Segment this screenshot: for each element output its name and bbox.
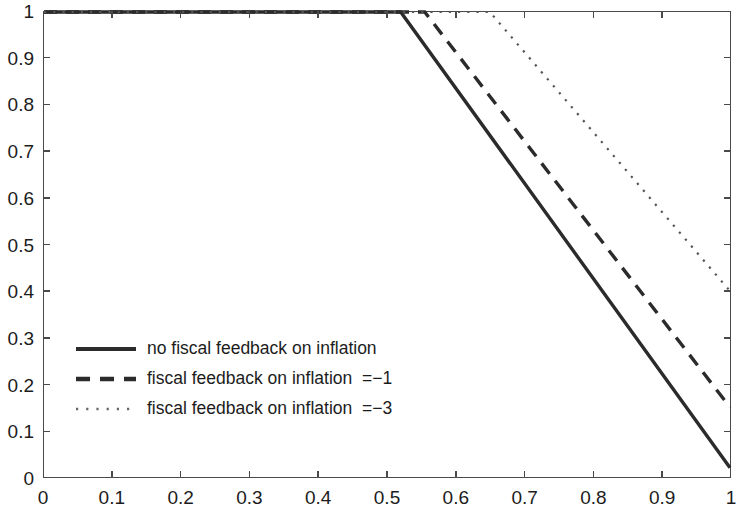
x-tick-mark-bottom-5 [386, 471, 388, 478]
y-tick-label-8: 0.8 [0, 95, 34, 114]
y-tick-label-7: 0.7 [0, 142, 34, 161]
legend-item-solid: no fiscal feedback on inflation [75, 334, 405, 364]
y-tick-label-9: 0.9 [0, 48, 34, 67]
y-tick-mark-right-9 [724, 57, 731, 59]
x-tick-label-0: 0 [38, 488, 49, 507]
x-tick-mark-bottom-8 [593, 471, 595, 478]
x-tick-mark-top-9 [661, 11, 663, 18]
x-tick-mark-top-3 [249, 11, 251, 18]
x-tick-label-10: 1 [726, 488, 737, 507]
y-tick-mark-right-1 [724, 431, 731, 433]
y-tick-mark-right-2 [724, 384, 731, 386]
y-tick-mark-right-6 [724, 197, 731, 199]
chart-figure: 00.10.20.30.40.50.60.70.80.91 00.10.20.3… [0, 0, 743, 511]
y-tick-mark-right-5 [724, 244, 731, 246]
y-tick-mark-left-6 [43, 197, 50, 199]
x-tick-label-3: 0.3 [236, 488, 262, 507]
y-tick-label-3: 0.3 [0, 328, 34, 347]
x-tick-mark-top-1 [111, 11, 113, 18]
x-tick-mark-top-4 [317, 11, 319, 18]
x-tick-mark-bottom-1 [111, 471, 113, 478]
y-tick-label-5: 0.5 [0, 235, 34, 254]
x-tick-label-6: 0.6 [443, 488, 469, 507]
x-tick-mark-bottom-7 [524, 471, 526, 478]
x-tick-mark-bottom-2 [180, 471, 182, 478]
legend-label-1: fiscal feedback on inflation =−1 [147, 370, 392, 388]
y-tick-mark-left-4 [43, 290, 50, 292]
y-tick-label-4: 0.4 [0, 282, 34, 301]
y-tick-mark-left-1 [43, 431, 50, 433]
legend-label-2: fiscal feedback on inflation =−3 [147, 400, 392, 418]
x-tick-label-1: 0.1 [99, 488, 125, 507]
x-tick-mark-bottom-4 [317, 471, 319, 478]
legend-item-dashed: fiscal feedback on inflation =−1 [75, 364, 405, 394]
y-tick-mark-left-9 [43, 57, 50, 59]
y-tick-mark-left-8 [43, 104, 50, 106]
x-tick-mark-bottom-3 [249, 471, 251, 478]
y-tick-mark-right-4 [724, 290, 731, 292]
x-tick-mark-top-5 [386, 11, 388, 18]
y-tick-label-6: 0.6 [0, 188, 34, 207]
x-tick-mark-bottom-9 [661, 471, 663, 478]
y-tick-mark-right-3 [724, 337, 731, 339]
chart-legend: no fiscal feedback on inflation fiscal f… [75, 334, 405, 424]
x-tick-mark-top-2 [180, 11, 182, 18]
x-tick-mark-top-8 [593, 11, 595, 18]
x-tick-label-4: 0.4 [305, 488, 331, 507]
legend-item-dotted: fiscal feedback on inflation =−3 [75, 394, 405, 424]
x-tick-label-2: 0.2 [167, 488, 193, 507]
y-tick-mark-left-5 [43, 244, 50, 246]
x-tick-label-9: 0.9 [649, 488, 675, 507]
legend-label-0: no fiscal feedback on inflation [147, 340, 377, 358]
y-tick-mark-left-3 [43, 337, 50, 339]
x-tick-mark-top-7 [524, 11, 526, 18]
y-tick-mark-right-8 [724, 104, 731, 106]
y-tick-label-2: 0.2 [0, 375, 34, 394]
y-tick-label-1: 0.1 [0, 422, 34, 441]
x-tick-mark-top-6 [455, 11, 457, 18]
x-tick-mark-bottom-6 [455, 471, 457, 478]
y-tick-mark-left-2 [43, 384, 50, 386]
x-tick-label-5: 0.5 [374, 488, 400, 507]
y-tick-label-10: 1 [0, 2, 34, 21]
y-tick-mark-left-7 [43, 150, 50, 152]
series-line-dotted [44, 12, 730, 291]
y-tick-mark-right-7 [724, 150, 731, 152]
x-tick-label-7: 0.7 [511, 488, 537, 507]
x-tick-label-8: 0.8 [580, 488, 606, 507]
y-tick-label-0: 0 [0, 469, 34, 488]
